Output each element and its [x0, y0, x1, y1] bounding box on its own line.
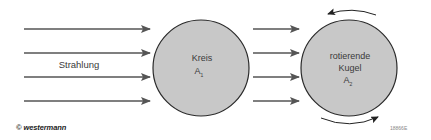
- circle-1-title: Kreis: [192, 53, 213, 63]
- middle-radiation-arrows: [253, 29, 299, 101]
- copyright-label: © westermann: [16, 123, 66, 132]
- radiation-diagram: Strahlung Kreis A1 rotierende Kugel A2: [0, 0, 431, 140]
- rotation-arrow-bottom-icon: [321, 117, 378, 124]
- sphere-title-line1: rotierende: [330, 51, 371, 61]
- radiation-label: Strahlung: [59, 59, 100, 70]
- rotation-arrow-top-icon: [328, 10, 376, 15]
- sphere-title-line2: Kugel: [338, 63, 361, 73]
- disc-shape: [153, 20, 249, 116]
- sphere-rotierende-kugel-a2: rotierende Kugel A2: [301, 20, 397, 116]
- figure-id: 18866E: [390, 125, 407, 131]
- circle-kreis-a1: Kreis A1: [153, 20, 249, 116]
